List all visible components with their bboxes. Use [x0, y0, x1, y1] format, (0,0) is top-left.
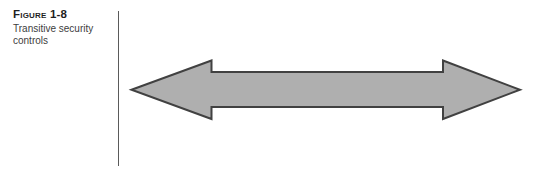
double-arrow-shape: [132, 61, 521, 120]
double-arrow: [0, 0, 541, 172]
figure-panel: Figure 1-8 Transitive security controls: [0, 0, 541, 172]
